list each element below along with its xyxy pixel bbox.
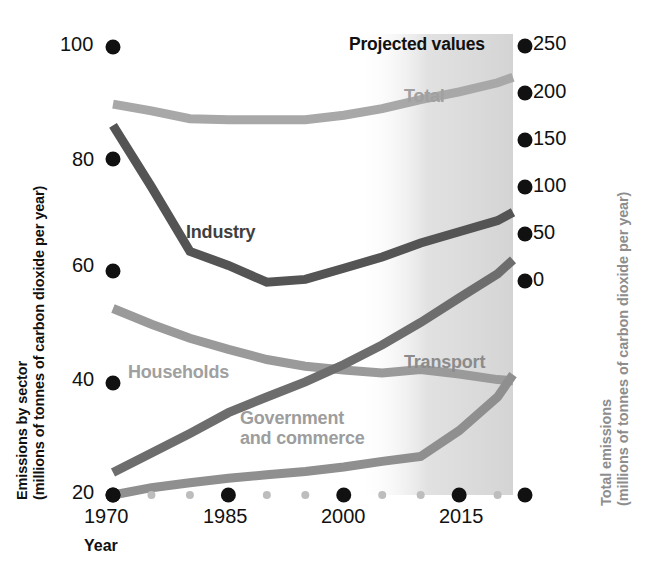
projected-values-label: Projected values [349, 34, 485, 55]
series-label-government-line1: Government [240, 408, 344, 428]
left-tick-label-20: 20 [72, 481, 94, 504]
left-tick-dot-80 [106, 152, 121, 167]
right-tick-dot-0 [518, 274, 533, 289]
right-tick-label-250: 250 [533, 32, 566, 55]
right-tick-dot-50 [518, 227, 533, 242]
x-tick-label-1970: 1970 [84, 505, 129, 528]
x-tick-dot-minor-2010 [417, 491, 425, 499]
right-tick-dot-250 [518, 39, 533, 54]
left-tick-dot-40 [106, 376, 121, 391]
series-label-government: Government and commerce [240, 408, 365, 448]
x-axis-end-dot [518, 488, 533, 503]
right-axis-title-line2: (millions of tonnes of carbon dioxide pe… [615, 192, 632, 506]
x-tick-dot-minor-2005 [378, 491, 386, 499]
x-tick-dot-1970 [106, 488, 121, 503]
series-label-government-line2: and commerce [240, 428, 365, 448]
x-tick-dot-minor-1990 [263, 491, 271, 499]
right-tick-label-150: 150 [533, 127, 566, 150]
right-tick-dot-100 [518, 180, 533, 195]
right-tick-label-50: 50 [533, 221, 555, 244]
left-tick-dot-100 [106, 40, 121, 55]
x-tick-dot-1985 [221, 488, 236, 503]
x-tick-label-2015: 2015 [439, 505, 484, 528]
x-axis-title: Year [84, 537, 118, 555]
x-tick-dot-minor-2020 [494, 491, 502, 499]
x-tick-dot-minor-1980 [186, 491, 194, 499]
right-tick-label-100: 100 [533, 174, 566, 197]
x-tick-dot-2000 [336, 488, 351, 503]
x-tick-label-2000: 2000 [321, 505, 366, 528]
x-tick-dot-2015 [452, 488, 467, 503]
left-axis-title-line1: Emissions by sector [14, 361, 30, 500]
right-tick-dot-150 [518, 133, 533, 148]
right-axis-tick-dots [518, 39, 533, 289]
series-label-total: Total [404, 86, 445, 106]
right-axis-title-line1: Total emissions [598, 399, 614, 506]
right-tick-dot-200 [518, 86, 533, 101]
series-label-households: Households [128, 362, 229, 382]
x-tick-dot-minor-1995 [301, 491, 309, 499]
left-tick-label-80: 80 [72, 148, 94, 171]
series-label-transport: Transport [404, 352, 485, 372]
left-tick-label-40: 40 [72, 368, 94, 391]
left-axis-title-line2: (millions of tonnes of carbon dioxide pe… [31, 186, 48, 500]
x-tick-label-1985: 1985 [203, 505, 248, 528]
x-tick-dot-minor-1975 [147, 491, 155, 499]
left-tick-dot-60 [106, 264, 121, 279]
chart-container: 100 80 60 40 20 250 200 150 100 50 0 197… [0, 0, 649, 578]
series-label-industry: Industry [186, 222, 255, 242]
left-tick-label-100: 100 [60, 33, 93, 56]
left-tick-label-60: 60 [72, 254, 94, 277]
right-axis-title: Total emissions (millions of tonnes of c… [598, 192, 632, 506]
left-axis-title: Emissions by sector (millions of tonnes … [14, 186, 48, 500]
right-tick-label-0: 0 [533, 268, 544, 291]
right-tick-label-200: 200 [533, 80, 566, 103]
